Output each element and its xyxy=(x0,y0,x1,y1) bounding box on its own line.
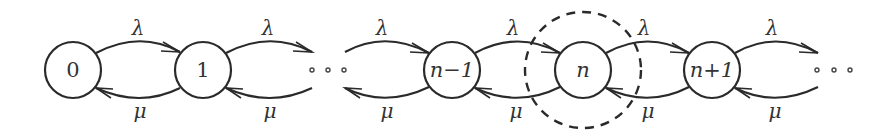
edge-1-to-0 xyxy=(96,88,180,98)
edge-ellipsis-to-n-minus-1 xyxy=(345,41,429,53)
birth-death-diagram: 0 1 n−1 n n+1 λ μ λ μ λ μ λ μ λ μ λ μ xyxy=(0,0,896,133)
mu-label-n-n-minus-1: μ xyxy=(510,99,523,123)
lambda-label-1-ellipsis: λ xyxy=(261,16,275,40)
node-n-plus-1: n+1 xyxy=(684,42,740,98)
node-n: n xyxy=(555,42,611,98)
edge-n-to-n-minus-1 xyxy=(475,87,560,98)
edge-0-to-1 xyxy=(96,41,180,53)
edge-n-plus-1-to-ellipsis xyxy=(735,42,818,54)
ellipsis-right xyxy=(815,68,852,72)
mu-label-1-0: μ xyxy=(134,99,147,123)
edge-ellipsis-to-1 xyxy=(226,88,312,98)
edge-n-plus-1-to-n xyxy=(606,87,689,98)
edge-n-minus-1-to-ellipsis xyxy=(345,87,429,98)
mu-label-n-plus-1-n: μ xyxy=(642,99,655,123)
mu-label-ellipsis-n-plus-1: μ xyxy=(769,99,782,123)
lambda-label-n-n-plus-1: λ xyxy=(637,16,651,40)
mu-label-n-minus-1-ellipsis: μ xyxy=(381,99,394,123)
node-1: 1 xyxy=(175,42,231,98)
edge-n-to-n-plus-1 xyxy=(606,42,689,54)
lambda-label-0-1: λ xyxy=(131,16,145,40)
node-0: 0 xyxy=(45,42,101,98)
edge-ellipsis-to-n-plus-1 xyxy=(735,87,818,98)
node-0-label: 0 xyxy=(66,58,79,82)
mu-label-ellipsis-1: μ xyxy=(264,99,277,123)
node-n-plus-1-label: n+1 xyxy=(690,58,734,82)
node-n-minus-1-label: n−1 xyxy=(430,58,474,82)
edge-1-to-ellipsis xyxy=(226,41,312,53)
node-n-label: n xyxy=(576,58,590,82)
lambda-label-n-minus-1-n: λ xyxy=(506,16,520,40)
node-n-minus-1: n−1 xyxy=(424,42,480,98)
lambda-label-n-plus-1-ellipsis: λ xyxy=(765,16,779,40)
ellipsis-left xyxy=(310,68,346,72)
lambda-label-ellipsis-n-minus-1: λ xyxy=(375,16,389,40)
node-1-label: 1 xyxy=(196,58,209,82)
edge-n-minus-1-to-n xyxy=(475,42,560,54)
